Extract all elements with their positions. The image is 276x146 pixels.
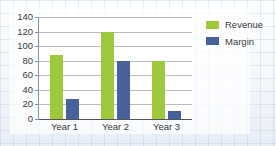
x-axis-label: Year 3 [153,122,180,132]
y-axis-label: 100 [17,41,33,51]
y-axis-label: 40 [22,85,33,95]
bar-margin-year-2 [117,61,130,119]
legend-label-margin: Margin [225,37,254,47]
y-axis-tick [35,17,39,18]
gridline [39,17,192,18]
y-axis-tick [35,104,39,105]
y-axis-label: 60 [22,71,33,81]
legend-label-revenue: Revenue [225,20,263,30]
bar-chart-figure: 020406080100120140Year 1Year 2Year 3 Rev… [0,0,276,146]
y-axis-tick [35,90,39,91]
gridline [39,32,192,33]
y-axis-tick [35,32,39,33]
y-axis-label: 0 [28,114,33,124]
y-axis-tick [35,75,39,76]
bar-revenue-year-3 [152,61,165,119]
chart-legend: Revenue Margin [206,20,263,53]
legend-item-revenue: Revenue [206,20,263,30]
y-axis-label: 80 [22,56,33,66]
bar-revenue-year-2 [101,32,114,119]
bar-margin-year-3 [168,111,181,119]
y-axis-tick [35,46,39,47]
x-axis-label: Year 2 [102,122,129,132]
margin-swatch-icon [206,37,219,45]
bar-revenue-year-1 [50,55,63,119]
x-axis-label: Year 1 [51,122,78,132]
bar-margin-year-1 [66,99,79,119]
legend-item-margin: Margin [206,37,263,47]
y-axis-tick [35,119,39,120]
revenue-swatch-icon [206,21,219,29]
plot-area: 020406080100120140Year 1Year 2Year 3 [38,17,192,120]
y-axis-label: 140 [17,12,33,22]
y-axis-label: 120 [17,27,33,37]
y-axis-tick [35,61,39,62]
y-axis-label: 20 [22,100,33,110]
gridline [39,46,192,47]
